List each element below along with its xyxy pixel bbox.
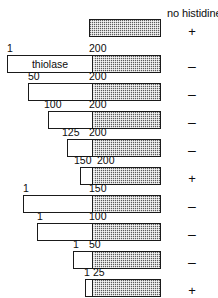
residue-tick-end: 200	[89, 99, 107, 110]
column-header-no-histidine: no histidine	[167, 7, 218, 19]
residue-tick-end: 200	[97, 155, 115, 166]
construct-bar	[89, 19, 161, 37]
growth-result: –	[183, 60, 201, 73]
growth-result: –	[183, 256, 201, 269]
thiolase-two-hybrid-figure: no histidine + 1 200 thiolase – 50 200 –…	[0, 0, 218, 298]
growth-result: +	[183, 172, 201, 185]
residue-tick-start: 100	[44, 99, 62, 110]
residue-tick-start: 1	[7, 43, 13, 54]
fusion-domain-segment	[92, 223, 161, 241]
growth-result: +	[183, 25, 201, 38]
growth-result: –	[183, 228, 201, 241]
residue-tick-start: 150	[74, 155, 92, 166]
residue-tick-start: 1	[37, 211, 43, 222]
residue-tick-end: 200	[89, 43, 107, 54]
thiolase-segment: thiolase	[7, 55, 93, 73]
residue-tick-end: 200	[89, 71, 107, 82]
thiolase-segment	[73, 251, 93, 269]
thiolase-segment	[23, 195, 93, 213]
residue-tick-end: 50	[89, 239, 101, 250]
thiolase-segment	[37, 223, 93, 241]
growth-result: –	[183, 144, 201, 157]
residue-tick-start: 1	[23, 183, 29, 194]
fusion-domain-segment	[89, 19, 161, 37]
residue-tick-start: 50	[28, 71, 40, 82]
residue-tick-end: 100	[89, 211, 107, 222]
construct-bar	[85, 279, 161, 297]
residue-tick-end: 25	[93, 267, 105, 278]
residue-tick-start: 125	[62, 127, 80, 138]
gene-label: thiolase	[32, 59, 68, 70]
growth-result: –	[183, 116, 201, 129]
thiolase-segment	[85, 279, 93, 297]
growth-result: –	[183, 200, 201, 213]
residue-tick-start: 1	[84, 267, 90, 278]
residue-tick-start: 1	[73, 239, 79, 250]
residue-tick-end: 200	[89, 127, 107, 138]
growth-result: +	[183, 284, 201, 297]
growth-result: –	[183, 88, 201, 101]
residue-tick-end: 150	[89, 183, 107, 194]
fusion-domain-segment	[92, 279, 161, 297]
